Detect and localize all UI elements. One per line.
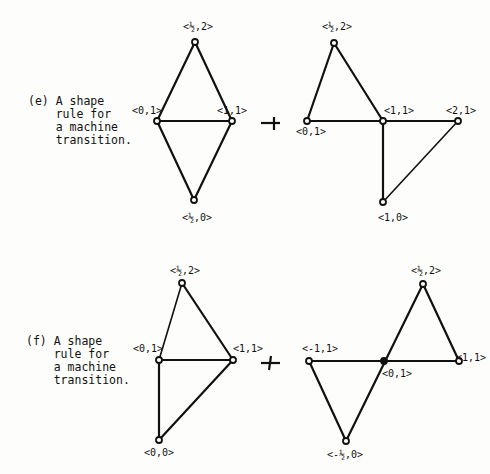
node-label: <0,0> [144,447,174,458]
shape-f-left: <½,2> <0,1> <1,1> <0,0> [133,265,263,458]
node-label: <1,1> [384,105,414,116]
edge [383,121,458,202]
arrow-icon [261,356,280,370]
shape-f-right: <½,2> <-1,1> <0,1> <1,1> <-½,0> [302,265,486,460]
node-label: <1,1> [217,105,247,116]
node-label: <½,2> [183,21,213,32]
edge [423,284,459,361]
node-point-icon [343,438,349,444]
edge [157,121,194,200]
node-label: <0,1> [382,368,412,379]
node-label: <½,2> [322,21,352,32]
edge [194,121,232,200]
node-label: <-1,1> [302,343,338,354]
node-point-icon [156,357,162,363]
arrow-icon [261,117,280,130]
node-point-icon [380,118,386,124]
edge [334,43,383,121]
node-label: <½,0> [182,212,212,223]
node-point-icon [381,358,387,364]
edge [307,43,334,121]
node-label: <½,2> [411,265,441,276]
node-point-icon [191,197,197,203]
edge [159,360,233,440]
shape-rules-svg: <½,2> <0,1> <1,1> <½,0> <½,2> <0,1> <1,1… [0,0,490,474]
shape-e-right: <½,2> <0,1> <1,1> <2,1> <1,0> [296,21,476,223]
edge [182,283,233,360]
node-label: <1,1> [233,343,263,354]
node-label: <1,1> [456,352,486,363]
node-label: <-½,0> [327,449,363,460]
node-point-icon [230,357,236,363]
edge [309,361,346,441]
node-point-icon [304,118,310,124]
diagram-canvas: (e) A shape rule for a machine transitio… [0,0,490,474]
node-point-icon [156,437,162,443]
shape-e-left: <½,2> <0,1> <1,1> <½,0> [132,21,247,223]
edge [157,42,195,121]
node-point-icon [420,281,426,287]
node-point-icon [229,118,235,124]
node-label: <0,1> [132,105,162,116]
node-point-icon [154,118,160,124]
node-point-icon [380,199,386,205]
node-label: <0,1> [296,126,326,137]
node-label: <2,1> [446,105,476,116]
node-label: <1,0> [378,212,408,223]
node-label: <0,1> [133,343,163,354]
node-point-icon [192,39,198,45]
node-label: <½,2> [170,265,200,276]
node-point-icon [331,40,337,46]
node-point-icon [455,118,461,124]
node-point-icon [179,280,185,286]
node-point-icon [306,358,312,364]
